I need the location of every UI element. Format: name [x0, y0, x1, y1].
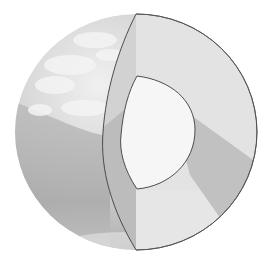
earth-diagram: [0, 0, 275, 272]
earth-cutaway-svg: [0, 0, 275, 272]
